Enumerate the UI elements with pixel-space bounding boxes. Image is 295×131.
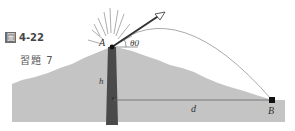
- label-b: B: [268, 105, 274, 116]
- figure-caption: 圖 4-22: [5, 32, 44, 43]
- figure-number: 4-22: [19, 32, 44, 43]
- figure-glyph-icon: 圖: [5, 32, 16, 43]
- label-a: A: [98, 37, 106, 48]
- projectile-volcano-figure: A θ0 h d B 圖 4-22 習題 7: [0, 0, 295, 131]
- volcano-vent: [106, 47, 118, 125]
- point-b: [269, 97, 275, 103]
- arrow-head-icon: [155, 12, 165, 20]
- exercise-label: 習題 7: [20, 52, 54, 67]
- label-theta: θ0: [130, 38, 139, 48]
- point-a: [110, 45, 115, 50]
- label-h: h: [99, 76, 104, 86]
